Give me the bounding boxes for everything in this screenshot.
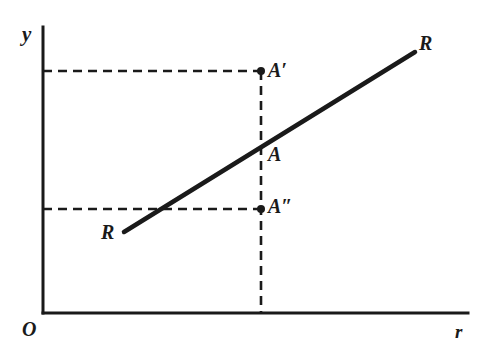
diagram-canvas: y O r R R A′ A A″	[0, 0, 489, 355]
diagram-vector-layer	[0, 0, 489, 355]
rr-line-label-lower-left: R	[101, 222, 114, 242]
point-a-prime-marker	[257, 67, 265, 75]
point-a-label: A	[268, 144, 281, 164]
y-axis-label: y	[22, 24, 31, 45]
point-a-double-prime-label: A″	[268, 196, 292, 216]
x-axis-label: r	[455, 322, 462, 341]
point-a-double-prime-marker	[257, 205, 265, 213]
point-a-prime-label: A′	[268, 60, 287, 80]
origin-label: O	[22, 319, 36, 339]
rr-line-label-upper-right: R	[419, 33, 432, 53]
